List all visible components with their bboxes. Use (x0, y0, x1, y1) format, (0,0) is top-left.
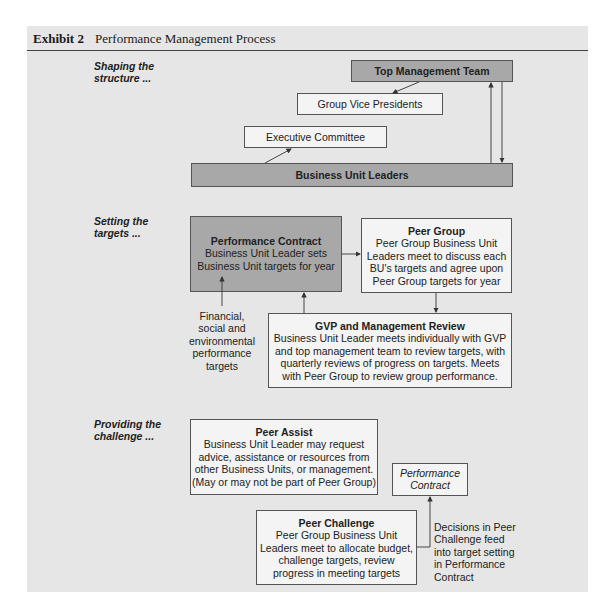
arrow-bul-to-exec (265, 149, 291, 163)
arrow-challenge-to-contract-ref (417, 497, 430, 547)
arrow-tmt-to-gvp (393, 82, 419, 93)
connector-arrows (0, 0, 613, 615)
